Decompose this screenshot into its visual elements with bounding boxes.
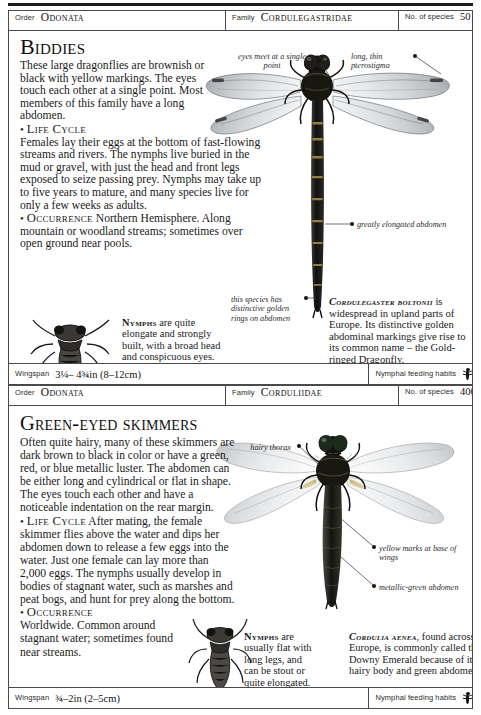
species-description: Cordulegaster boltonii is widespread in … bbox=[329, 296, 472, 364]
thorax bbox=[301, 70, 333, 102]
species-description: Cordulia aenea, found across Europe, is … bbox=[349, 631, 472, 677]
entry-body: Biddies These large dragonflies are brow… bbox=[9, 30, 472, 364]
occurrence-heading: • Occurrence bbox=[20, 606, 170, 619]
entry-body: Green-eyed skimmers Often quite hairy, m… bbox=[9, 405, 472, 688]
order-value: Odonata bbox=[41, 386, 84, 398]
family-value: Corduliidae bbox=[261, 386, 322, 398]
footer-feeding-cell: Nymphal feeding habits bbox=[369, 688, 472, 708]
occurrence-label: Occurrence bbox=[27, 211, 93, 225]
abdomen bbox=[323, 485, 343, 609]
species-latin-name: Cordulia aenea bbox=[349, 631, 417, 642]
species-count-label: No. of species bbox=[405, 387, 454, 396]
abdomen bbox=[311, 100, 324, 318]
entry-header: Order Odonata Family Corduliidae No. of … bbox=[9, 386, 472, 406]
header-species-cell: No. of species 50 bbox=[399, 11, 472, 30]
bullet-glyph: • bbox=[20, 515, 24, 527]
annotation-abdomen: greatly elongated abdomen bbox=[357, 220, 453, 229]
wingspan-label: Wingspan bbox=[15, 693, 49, 702]
header-species-cell: No. of species 400 bbox=[399, 386, 472, 405]
footer-wingspan-cell: Wingspan ¾–2in (2–5cm) bbox=[9, 688, 369, 708]
species-latin-name: Cordulegaster boltonii bbox=[329, 296, 433, 307]
annotation-pterostigma: long, thin pterostigma bbox=[351, 52, 421, 71]
nymph-caption: Nymphs are usually flat with long legs, … bbox=[244, 631, 316, 688]
annotation-text: greatly elongated abdomen bbox=[357, 220, 446, 229]
family-label: Family bbox=[232, 388, 255, 397]
guide-page: Order Odonata Family Cordulegastridae No… bbox=[0, 0, 481, 715]
nymph-label: Nymphs bbox=[244, 631, 279, 642]
head-and-eyes bbox=[319, 435, 348, 455]
life-cycle-label: Life Cycle bbox=[27, 122, 86, 136]
annotation-text: yellow marks at base of wings bbox=[379, 544, 456, 562]
life-cycle-text: After mating, the female skimmer flies a… bbox=[20, 515, 234, 607]
order-label: Order bbox=[15, 388, 35, 397]
annotation-text: hairy thorax bbox=[250, 443, 291, 452]
life-cycle-label: Life Cycle bbox=[27, 514, 86, 528]
annotation-text: metallic-green abdomen bbox=[379, 583, 459, 592]
occurrence-label: Occurrence bbox=[27, 605, 93, 619]
family-value: Cordulegastridae bbox=[261, 11, 353, 23]
annotation-yellow-marks: yellow marks at base of wings bbox=[379, 544, 465, 563]
header-order-cell: Order Odonata bbox=[9, 11, 226, 30]
life-cycle-heading: • Life Cycle bbox=[20, 123, 206, 137]
left-hindwing bbox=[224, 477, 319, 523]
footer-wingspan-cell: Wingspan 3¼– 4¾in (8–12cm) bbox=[9, 364, 369, 384]
entry-biddies: Order Odonata Family Cordulegastridae No… bbox=[8, 10, 473, 385]
annotation-text: this species has distinctive golden ring… bbox=[231, 295, 290, 323]
page-title: Green-eyed skimmers bbox=[20, 411, 236, 435]
page-top-rule bbox=[8, 3, 473, 6]
feeding-habits-label: Nymphal feeding habits bbox=[375, 369, 456, 378]
entry-header: Order Odonata Family Cordulegastridae No… bbox=[9, 11, 472, 31]
occurrence-block: • Occurrence Northern Hemisphere. Along … bbox=[20, 212, 266, 251]
entry-text: Green-eyed skimmers Often quite hairy, m… bbox=[20, 438, 236, 659]
left-hindwing bbox=[211, 96, 301, 134]
bullet-glyph: • bbox=[20, 212, 24, 224]
family-label: Family bbox=[232, 13, 255, 22]
order-value: Odonata bbox=[41, 11, 84, 23]
bullet-glyph: • bbox=[20, 606, 24, 618]
entry-text: Biddies These large dragonflies are brow… bbox=[20, 63, 206, 251]
annotation-golden-rings: this species has distinctive golden ring… bbox=[231, 295, 303, 323]
footer-feeding-cell: Nymphal feeding habits bbox=[369, 364, 472, 384]
annotation-metallic-green: metallic-green abdomen bbox=[379, 583, 465, 592]
left-forewing bbox=[206, 74, 301, 100]
species-count-value: 400 bbox=[460, 386, 472, 397]
intro-paragraph: These large dragonflies are brownish or … bbox=[20, 60, 206, 123]
entry-green-eyed-skimmers: Order Odonata Family Corduliidae No. of … bbox=[8, 385, 473, 709]
header-order-cell: Order Odonata bbox=[9, 386, 226, 405]
page-title: Biddies bbox=[20, 35, 206, 59]
annotation-hairy-thorax: hairy thorax bbox=[231, 443, 291, 452]
annotation-text: eyes meet at a single point bbox=[238, 52, 306, 70]
life-cycle-paragraph: Females lay their eggs at the bottom of … bbox=[20, 137, 266, 213]
occurrence-text: Worldwide. Common around stagnant water;… bbox=[20, 619, 180, 658]
nymph-icon bbox=[463, 368, 472, 381]
entry-footer: Wingspan ¾–2in (2–5cm) Nymphal feeding h… bbox=[9, 687, 472, 708]
nymph-caption: Nymphs are quite elongate and strongly b… bbox=[122, 317, 226, 363]
annotation-eyes: eyes meet at a single point bbox=[229, 52, 315, 71]
life-cycle-block: • Life Cycle After mating, the female sk… bbox=[20, 515, 236, 607]
wingspan-label: Wingspan bbox=[15, 369, 49, 378]
feeding-habits-label: Nymphal feeding habits bbox=[375, 693, 456, 702]
species-count-label: No. of species bbox=[405, 12, 454, 21]
entry-footer: Wingspan 3¼– 4¾in (8–12cm) Nymphal feedi… bbox=[9, 363, 472, 384]
nymph-icon bbox=[463, 692, 472, 705]
header-family-cell: Family Cordulegastridae bbox=[226, 11, 399, 30]
right-forewing bbox=[333, 73, 449, 99]
bullet-glyph: • bbox=[20, 123, 24, 135]
right-forewing bbox=[347, 443, 454, 473]
wingspan-value: 3¼– 4¾in (8–12cm) bbox=[55, 369, 141, 380]
annotation-text: long, thin pterostigma bbox=[351, 52, 390, 70]
species-count-value: 50 bbox=[460, 11, 471, 22]
wingspan-value: ¾–2in (2–5cm) bbox=[55, 693, 120, 704]
header-family-cell: Family Corduliidae bbox=[226, 386, 399, 405]
nymph-label: Nymphs bbox=[122, 317, 157, 328]
intro-paragraph: Often quite hairy, many of these skimmer… bbox=[20, 436, 236, 515]
nymph-illustration bbox=[25, 318, 117, 364]
order-label: Order bbox=[15, 13, 35, 22]
right-hindwing bbox=[347, 477, 444, 523]
